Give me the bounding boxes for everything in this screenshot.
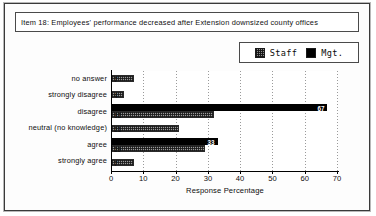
bar-group-agree: 33 29: [111, 138, 338, 155]
x-tick-label: 70: [333, 174, 341, 183]
solid-black-square-icon: [306, 48, 316, 58]
bar-staff: 21: [111, 125, 179, 132]
plot-area: 7 4 67 32 21 33: [111, 71, 338, 171]
bar-group-strongly-disagree: 4: [111, 87, 338, 104]
page-title: Item 18: Employees' performance decrease…: [21, 18, 318, 27]
bar-value-label: 29: [114, 146, 121, 153]
bar-value-label: 67: [317, 105, 324, 112]
bar-staff: 32: [111, 111, 214, 118]
bar-group-disagree: 67 32: [111, 104, 338, 121]
x-axis-title: Response Percentage: [111, 186, 339, 195]
bar-staff: 7: [111, 75, 134, 82]
y-axis-label: strongly agree: [58, 156, 107, 165]
y-axis-label: agree: [87, 140, 107, 149]
legend-item-mgt: Mgt.: [306, 48, 343, 58]
y-axis-category-labels: no answer strongly disagree disagree neu…: [0, 71, 109, 171]
bar-staff: 4: [111, 91, 124, 98]
chart-figure: Item 18: Employees' performance decrease…: [0, 0, 376, 216]
hatched-gray-pattern-icon: [255, 48, 265, 58]
x-axis-ticks: 0 10 20 30 40 50 60 70: [111, 171, 339, 183]
bar-mgt: 67: [111, 104, 327, 111]
bar-value-label: 32: [114, 112, 121, 119]
bar-group-neutral: 21: [111, 121, 338, 138]
legend-item-staff: Staff: [255, 48, 297, 58]
y-axis-line: [111, 70, 112, 172]
x-tick-label: 30: [204, 174, 212, 183]
y-axis-label: no answer: [72, 74, 107, 83]
bar-staff: 7: [111, 159, 134, 166]
x-tick-label: 60: [300, 174, 308, 183]
bar-value-label: 21: [114, 126, 121, 133]
y-axis-label: strongly disagree: [48, 90, 107, 99]
bar-value-label: 7: [114, 76, 118, 83]
y-axis-label: disagree: [77, 107, 107, 116]
x-tick-label: 50: [268, 174, 276, 183]
legend-label-mgt: Mgt.: [321, 48, 343, 58]
legend-label-staff: Staff: [270, 48, 297, 58]
bar-staff: 29: [111, 145, 205, 152]
y-axis-label: neutral (no knowledge): [29, 123, 107, 132]
x-tick-label: 20: [171, 174, 179, 183]
x-tick-label: 40: [236, 174, 244, 183]
bar-group-strongly-agree: 7: [111, 155, 338, 171]
x-tick-label: 0: [109, 174, 113, 183]
bar-value-label: 7: [114, 160, 118, 167]
x-tick-label: 10: [139, 174, 147, 183]
bar-group-no-answer: 7: [111, 71, 338, 87]
bar-value-label: 33: [208, 139, 215, 146]
bar-value-label: 4: [114, 92, 118, 99]
chart-title-box: Item 18: Employees' performance decrease…: [15, 12, 359, 32]
bar-mgt: 33: [111, 138, 218, 145]
chart-legend: Staff Mgt.: [239, 42, 359, 63]
